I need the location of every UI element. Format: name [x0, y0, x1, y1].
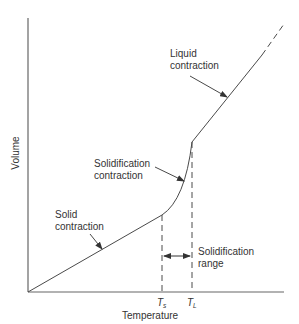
solid-pointer-arrow: [90, 234, 102, 249]
solidification-pointer-arrow: [155, 167, 184, 181]
solidification-contraction-label: Solidificationcontraction: [94, 158, 150, 181]
solidification-range-label: Solidificationrange: [198, 246, 254, 269]
liquid-label-arrow: [226, 76, 228, 97]
liquid-contraction-label: Liquidcontraction: [170, 48, 219, 71]
x-axis-label: Temperature: [122, 310, 179, 321]
liquid-extrapolation-dashed: [262, 24, 284, 55]
tl-label: TL: [187, 297, 197, 309]
y-axis-label: Volume: [10, 136, 21, 170]
solid-contraction-label: Solidcontraction: [55, 209, 104, 232]
liquid-contraction-arrow: [226, 76, 228, 96]
liquid-pointer-arrow: [226, 75, 228, 97]
liquid-arrow-final: [190, 76, 227, 97]
liquid-label-pointer: [226, 75, 228, 96]
liquid-arrow: [226, 76, 228, 96]
liquid-pointer-arrow: [227, 75, 229, 96]
diagram-canvas: Liquidcontraction Solidificationcontract…: [0, 0, 299, 324]
liquid-pointer: [226, 76, 228, 96]
liquid-pointer-real: [226, 75, 227, 97]
liquid-arrow-line: [226, 76, 228, 96]
solidification-curve: [162, 142, 192, 215]
liquid-arrow-visible: [226, 76, 227, 96]
liquid-pointer-arrow: [226, 75, 229, 97]
ts-label: Ts: [157, 297, 167, 309]
liquid-contraction-arrow-main: [226, 76, 227, 96]
